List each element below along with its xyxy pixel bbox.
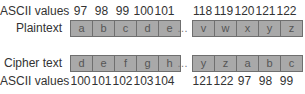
ascii-value: 122 (276, 4, 297, 18)
plaintext-ascii-left: 97 98 99 100 101 (70, 4, 175, 18)
ascii-value: 98 (91, 4, 112, 18)
plaintext-ascii-right: 118 119 120 121 122 (192, 4, 297, 18)
ascii-value: 100 (133, 4, 154, 18)
ascii-value: 100 (70, 74, 91, 88)
ascii-value: 101 (91, 74, 112, 88)
ascii-value: 121 (255, 4, 276, 18)
letter-box: c (280, 55, 303, 72)
ascii-value: 104 (154, 74, 175, 88)
ciphertext-boxes-right: y z a b c (192, 55, 303, 72)
letter-box: a (70, 20, 93, 37)
ellipsis: … (177, 22, 188, 34)
letter-box: z (280, 20, 303, 37)
ascii-value: 101 (154, 4, 175, 18)
letter-box: g (136, 55, 159, 72)
letter-box: a (236, 55, 259, 72)
letter-box: y (258, 20, 281, 37)
ascii-value: 103 (133, 74, 154, 88)
letter-box: x (236, 20, 259, 37)
ascii-value: 119 (213, 4, 234, 18)
letter-box: d (136, 20, 159, 37)
letter-box: b (258, 55, 281, 72)
letter-box: e (92, 55, 115, 72)
letter-box: v (192, 20, 215, 37)
ascii-value: 99 (276, 74, 297, 88)
ellipsis: … (177, 57, 188, 69)
ascii-value: 102 (112, 74, 133, 88)
letter-box: c (114, 20, 137, 37)
ciphertext-boxes-left: d e f g h (70, 55, 181, 72)
ascii-value: 121 (192, 74, 213, 88)
plaintext-boxes-right: v w x y z (192, 20, 303, 37)
ascii-value: 122 (213, 74, 234, 88)
ciphertext-label: Cipher text (0, 56, 62, 70)
plaintext-label: Plaintext (0, 21, 62, 35)
ciphertext-ascii-right: 121 122 97 98 99 (192, 74, 297, 88)
ascii-value: 99 (112, 4, 133, 18)
letter-box: b (92, 20, 115, 37)
bottom-ascii-label: ASCII values (0, 74, 62, 88)
plaintext-boxes-left: a b c d e (70, 20, 181, 37)
ascii-value: 97 (234, 74, 255, 88)
ascii-value: 120 (234, 4, 255, 18)
ciphertext-ascii-left: 100 101 102 103 104 (70, 74, 175, 88)
ascii-value: 98 (255, 74, 276, 88)
letter-box: f (114, 55, 137, 72)
top-ascii-label: ASCII values (0, 4, 62, 18)
letter-box: w (214, 20, 237, 37)
letter-box: z (214, 55, 237, 72)
letter-box: d (70, 55, 93, 72)
ascii-value: 118 (192, 4, 213, 18)
ascii-value: 97 (70, 4, 91, 18)
letter-box: y (192, 55, 215, 72)
